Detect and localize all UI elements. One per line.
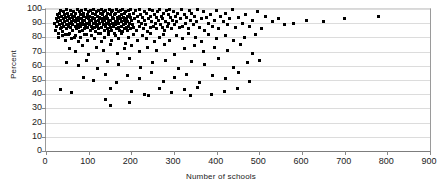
data-point <box>162 80 165 83</box>
data-point <box>179 17 182 20</box>
y-tick-label-70: 70 <box>32 47 42 56</box>
data-point <box>174 15 177 18</box>
data-point <box>124 42 127 45</box>
data-point <box>237 71 240 74</box>
data-point <box>322 20 325 23</box>
x-tick-label-200: 200 <box>110 156 150 166</box>
data-point <box>151 9 154 12</box>
y-tickmark-100 <box>42 9 46 10</box>
data-point <box>198 81 201 84</box>
data-point <box>232 39 235 42</box>
data-point <box>198 26 201 29</box>
data-point <box>234 26 237 29</box>
gridline-y-20 <box>46 123 430 124</box>
data-point <box>203 63 206 66</box>
x-tickmark-200 <box>131 151 132 155</box>
x-tick-label-400: 400 <box>196 156 236 166</box>
x-tick-label-100: 100 <box>68 156 108 166</box>
data-point <box>95 46 98 49</box>
data-point <box>343 17 346 20</box>
data-point <box>65 8 68 11</box>
data-point <box>173 23 176 26</box>
gridline-y-10 <box>46 137 430 138</box>
data-point <box>107 33 110 36</box>
y-tick-label-40: 40 <box>32 89 42 98</box>
data-point <box>207 22 210 25</box>
data-point <box>61 34 64 37</box>
data-point <box>202 50 205 53</box>
y-tick-label-90: 90 <box>32 18 42 27</box>
data-point <box>85 59 88 62</box>
data-point <box>158 36 161 39</box>
data-point <box>166 25 169 28</box>
data-point <box>146 46 149 49</box>
y-tickmark-70 <box>42 52 46 53</box>
data-point <box>305 19 308 22</box>
data-point <box>67 33 70 36</box>
x-tick-label-0: 0 <box>25 156 65 166</box>
data-point <box>136 39 139 42</box>
data-point <box>222 20 225 23</box>
data-point <box>109 104 112 107</box>
data-point <box>237 16 240 19</box>
data-point <box>162 33 165 36</box>
x-tick-label-300: 300 <box>153 156 193 166</box>
data-point <box>264 15 267 18</box>
y-tickmark-60 <box>42 66 46 67</box>
data-point <box>251 52 254 55</box>
data-point <box>128 57 131 60</box>
x-axis-tick-labels: 0100200300400500600700800900 <box>0 156 442 170</box>
data-point <box>226 23 229 26</box>
data-point <box>231 8 234 11</box>
data-point <box>258 59 261 62</box>
plot-area <box>45 8 431 152</box>
data-point <box>158 8 161 11</box>
x-tickmark-800 <box>387 151 388 155</box>
data-point <box>93 37 96 40</box>
data-point <box>130 44 133 47</box>
x-tickmark-0 <box>46 151 47 155</box>
data-point <box>100 40 103 43</box>
data-point <box>211 74 214 77</box>
data-point <box>168 39 171 42</box>
data-point <box>74 34 77 37</box>
x-tickmark-900 <box>430 151 431 155</box>
x-tickmark-600 <box>302 151 303 155</box>
data-point <box>104 98 107 101</box>
data-point <box>102 49 105 52</box>
data-point <box>254 33 257 36</box>
data-point <box>215 9 218 12</box>
scatter-chart: Percent 0102030405060708090100 010020030… <box>0 0 442 192</box>
data-point <box>244 13 247 16</box>
data-point <box>224 34 227 37</box>
data-point <box>117 63 120 66</box>
data-point <box>145 12 148 15</box>
data-point <box>248 80 251 83</box>
data-point <box>164 59 167 62</box>
data-point <box>202 10 205 13</box>
x-tickmark-700 <box>345 151 346 155</box>
data-point <box>109 87 112 90</box>
data-point <box>141 34 144 37</box>
data-point <box>211 25 214 28</box>
data-point <box>158 87 161 90</box>
data-point <box>65 27 68 30</box>
data-point <box>163 43 166 46</box>
data-point <box>183 47 186 50</box>
data-point <box>246 61 249 64</box>
data-point <box>224 77 227 80</box>
y-tickmark-80 <box>42 37 46 38</box>
data-point <box>183 88 186 91</box>
data-point <box>85 33 88 36</box>
data-point <box>147 94 150 97</box>
data-point <box>228 17 231 20</box>
data-point <box>99 32 102 35</box>
y-tickmark-50 <box>42 80 46 81</box>
data-point <box>217 27 220 30</box>
data-point <box>173 53 176 56</box>
x-tick-label-500: 500 <box>238 156 278 166</box>
data-point <box>200 17 203 20</box>
data-point <box>177 67 180 70</box>
y-tickmark-20 <box>42 123 46 124</box>
data-point <box>192 23 195 26</box>
